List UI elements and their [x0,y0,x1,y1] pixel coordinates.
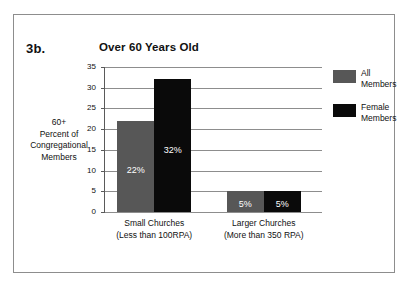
figure-panel: 3b. Over 60 Years Old 60+ Percent of Con… [0,0,407,289]
legend-label-line: Members [361,113,396,124]
y-tick-25 [101,108,105,109]
y-tick-label-15: 15 [78,146,96,154]
x-category-sublabel: (More than 350 RPA) [204,230,324,242]
panel-number: 3b. [26,41,45,56]
bar-value-label: 5% [227,200,264,209]
bar-small-churches-female-members[interactable]: 32% [154,79,191,212]
legend-swatch [333,104,356,117]
legend-swatch [333,70,356,83]
gridline-25 [105,108,322,109]
x-category-2: Larger Churches(More than 350 RPA) [204,218,324,241]
bar-small-churches-all-members[interactable]: 22% [117,121,154,212]
y-tick-0 [101,212,105,213]
y-tick-35 [101,67,105,68]
y-tick-20 [101,129,105,130]
legend-label: FemaleMembers [361,102,396,123]
gridline-0 [105,212,322,213]
legend-label-line: Female [361,102,396,113]
y-tick-label-0: 0 [78,208,96,216]
bar-larger-churches-female-members[interactable]: 5% [264,191,301,212]
y-tick-label-10: 10 [78,167,96,175]
y-tick-10 [101,171,105,172]
y-tick-30 [101,88,105,89]
bar-larger-churches-all-members[interactable]: 5% [227,191,264,212]
legend-label-line: All [361,68,396,79]
plot-area: 22%5%32%5% [105,67,322,212]
chart-title: Over 60 Years Old [99,41,199,53]
y-tick-5 [101,191,105,192]
x-category-1: Small Churches(Less than 100RPA) [94,218,214,241]
bar-value-label: 32% [154,146,191,155]
gridline-30 [105,88,322,89]
x-category-name: Larger Churches [204,218,324,230]
y-tick-label-20: 20 [78,125,96,133]
y-tick-label-35: 35 [78,63,96,71]
y-tick-label-25: 25 [78,104,96,112]
bar-value-label: 22% [117,166,154,175]
legend-label-line: Members [361,79,396,90]
x-category-name: Small Churches [94,218,214,230]
y-tick-15 [101,150,105,151]
y-tick-label-30: 30 [78,84,96,92]
bar-value-label: 5% [264,200,301,209]
legend-label: AllMembers [361,68,396,89]
x-category-sublabel: (Less than 100RPA) [94,230,214,242]
gridline-35 [105,67,322,68]
y-tick-label-5: 5 [78,187,96,195]
